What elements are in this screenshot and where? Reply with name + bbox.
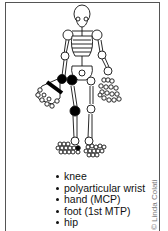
ribcage-icon [71,36,92,56]
legend-item: hip [56,217,145,229]
left-hand-icon [98,78,121,102]
joint-legend: knee polyarticular wrist hand (MCP) foot… [56,171,145,229]
photo-credit: © Linda Colati [150,180,159,230]
hip-joint-marker [67,75,77,85]
feet-icon [56,142,106,157]
legend-item: knee [56,171,145,183]
knee-joint-marker [70,106,80,116]
mtp-joint-marker [76,146,81,151]
skull-icon [74,5,90,27]
right-hand-icon [36,78,62,108]
wrist-joint-marker [58,75,67,84]
